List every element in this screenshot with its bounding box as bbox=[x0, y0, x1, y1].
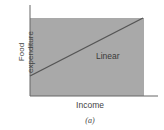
series-annotation-linear: Linear bbox=[96, 51, 120, 61]
y-axis-label-line-1: Food bbox=[17, 24, 26, 80]
y-axis-label-line-2: expenditure bbox=[26, 24, 35, 80]
y-axis-label: Food expenditure bbox=[17, 24, 35, 80]
shaded-region bbox=[30, 18, 144, 96]
figure-caption: (a) bbox=[75, 116, 105, 125]
x-axis-label: Income bbox=[60, 100, 120, 110]
